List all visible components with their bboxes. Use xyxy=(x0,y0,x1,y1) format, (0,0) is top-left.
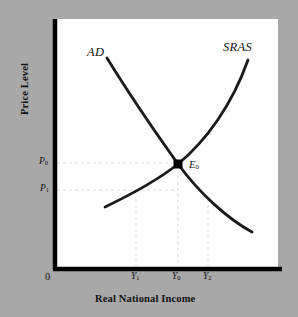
economics-chart-figure: AD SRAS E0 P0 P1 Y1 Y0 Y2 0 Price Level … xyxy=(0,0,298,317)
x-tick-y2-sub: 2 xyxy=(208,274,211,281)
equilibrium-label: E0 xyxy=(189,160,199,171)
x-tick-y0: Y0 xyxy=(172,272,181,282)
y-tick-p0: P0 xyxy=(39,157,48,167)
x-axis-title: Real National Income xyxy=(95,294,195,305)
origin-label: 0 xyxy=(45,272,50,283)
sras-curve xyxy=(105,60,248,207)
y-tick-p1-sub: 1 xyxy=(46,186,49,193)
x-tick-y1: Y1 xyxy=(131,272,140,282)
x-tick-y1-sub: 1 xyxy=(136,274,139,281)
y-tick-p1: P1 xyxy=(40,184,49,194)
x-tick-y0-sub: 0 xyxy=(177,274,180,281)
sras-curve-label: SRAS xyxy=(223,41,252,54)
y-axis-title: Price Level xyxy=(20,63,31,115)
x-tick-y2: Y2 xyxy=(203,272,212,282)
y-tick-p0-sub: 0 xyxy=(45,159,48,166)
gridlines xyxy=(57,163,208,267)
equilibrium-label-sub: 0 xyxy=(195,163,199,171)
ad-curve-label: AD xyxy=(87,46,104,59)
equilibrium-marker xyxy=(174,160,183,169)
ad-curve xyxy=(107,58,252,232)
